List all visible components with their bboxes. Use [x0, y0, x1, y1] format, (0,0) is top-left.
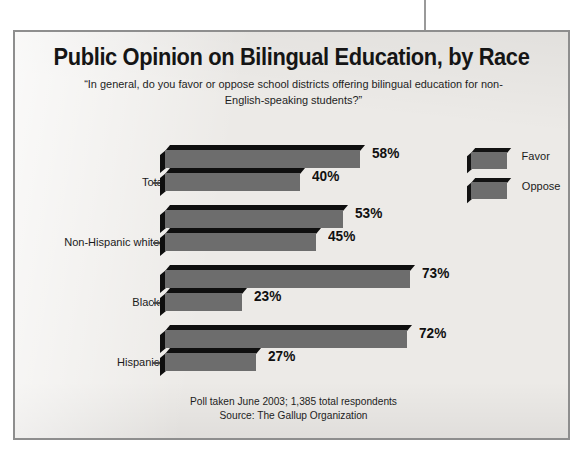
bar-value-nhw-favor: 53%	[355, 205, 382, 221]
bar-value-nhw-oppose: 45%	[328, 228, 355, 244]
bar-hispanics-oppose	[160, 348, 251, 366]
bar-hispanics-favor	[160, 325, 402, 343]
bar-total-oppose	[160, 168, 295, 186]
footnote-line-1: Poll taken June 2003; 1,385 total respon…	[26, 395, 561, 409]
bar-total-favor	[160, 145, 355, 163]
chart-panel: Public Opinion on Bilingual Education, b…	[13, 30, 570, 440]
category-tick-non-hispanic-whites	[153, 242, 160, 244]
bar-blacks-oppose	[160, 288, 237, 306]
bar-blacks-favor	[160, 265, 405, 283]
chart-footnote: Poll taken June 2003; 1,385 total respon…	[26, 395, 561, 422]
category-tick-total	[153, 182, 160, 184]
plot-area: Total 58% 40% Non-Hispanic whites 53% 45…	[15, 32, 572, 442]
bar-nhw-favor	[160, 205, 338, 223]
bar-value-hispanics-favor: 72%	[419, 325, 446, 341]
bar-value-blacks-oppose: 23%	[254, 288, 281, 304]
bar-value-total-oppose: 40%	[312, 168, 339, 184]
bar-nhw-oppose	[160, 228, 311, 246]
bar-value-blacks-favor: 73%	[422, 265, 449, 281]
category-tick-hispanics	[153, 362, 160, 364]
top-edge-tick	[424, 0, 426, 31]
footnote-line-2: Source: The Gallup Organization	[26, 409, 561, 423]
category-label-non-hispanic-whites: Non-Hispanic whites	[64, 236, 165, 248]
category-tick-blacks	[153, 302, 160, 304]
bar-value-total-favor: 58%	[372, 145, 399, 161]
bar-value-hispanics-oppose: 27%	[268, 348, 295, 364]
